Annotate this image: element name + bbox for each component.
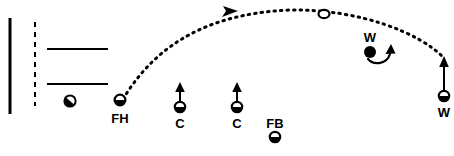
player-c2[interactable]: C (231, 82, 244, 131)
w-defender-curved-arrow-head-icon (386, 44, 396, 54)
play-diagram: FH C C FB (0, 0, 454, 156)
player-fb[interactable]: FB (266, 116, 283, 145)
player-w-receiver[interactable]: W (438, 56, 451, 120)
player-w-receiver-label: W (438, 105, 451, 120)
pass-trajectory (123, 6, 444, 99)
player-w-defender-label: W (364, 30, 377, 45)
w-receiver-movement-arrow-head-icon (439, 56, 449, 67)
pass-trajectory-path (123, 10, 444, 99)
player-c1-label: C (175, 116, 185, 131)
c1-movement-arrow-head-icon (175, 82, 185, 92)
pass-direction-arrow-icon (222, 6, 238, 17)
c2-movement-arrow-head-icon (232, 82, 242, 92)
player-c2-label: C (232, 116, 242, 131)
ball-icon (319, 10, 330, 18)
player-fh[interactable]: FH (111, 95, 128, 126)
player-fb-label: FB (266, 116, 283, 131)
player-w-defender[interactable]: W (364, 30, 396, 63)
w-defender-marker-icon (364, 46, 376, 58)
player-c1[interactable]: C (174, 82, 187, 131)
player-goalkeeper[interactable] (62, 94, 78, 108)
player-fh-label: FH (111, 111, 128, 126)
field-markings (10, 18, 108, 114)
ball (319, 10, 330, 18)
field-diagram-canvas: FH C C FB (0, 0, 454, 156)
